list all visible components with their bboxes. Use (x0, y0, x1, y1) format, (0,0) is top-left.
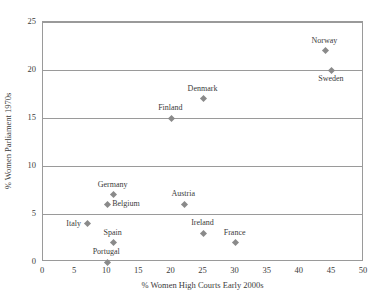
x-tick-45: 45 (327, 266, 336, 275)
y-tick-10: 10 (20, 161, 36, 170)
y-tick-5: 5 (20, 209, 36, 218)
data-point-germany[interactable] (110, 191, 117, 198)
point-label-france: France (224, 228, 246, 237)
gridline-y-15 (43, 118, 362, 119)
data-point-italy[interactable] (84, 220, 91, 227)
data-point-france[interactable] (232, 239, 239, 246)
x-tick-35: 35 (262, 266, 271, 275)
x-tick-15: 15 (134, 266, 143, 275)
point-label-ireland: Ireland (191, 218, 214, 227)
point-label-norway: Norway (312, 36, 338, 45)
y-tick-0: 0 (20, 257, 36, 266)
point-label-portugal: Portugal (93, 247, 120, 256)
gridline-y-5 (43, 214, 362, 215)
x-tick-40: 40 (295, 266, 304, 275)
y-axis-title: % Women Parliament 1970s (3, 93, 13, 190)
x-tick-20: 20 (166, 266, 175, 275)
x-tick-25: 25 (198, 266, 207, 275)
data-point-finland[interactable] (168, 114, 175, 121)
data-point-spain[interactable] (110, 239, 117, 246)
point-label-italy: Italy (66, 218, 81, 227)
x-tick-0: 0 (40, 266, 44, 275)
gridline-y-10 (43, 166, 362, 167)
scatter-chart-figure: 05101520253035404550 0510152025 Portugal… (0, 0, 392, 301)
data-point-belgium[interactable] (104, 201, 111, 208)
x-tick-30: 30 (230, 266, 239, 275)
point-label-spain: Spain (103, 228, 121, 237)
data-point-austria[interactable] (181, 201, 188, 208)
data-point-denmark[interactable] (200, 95, 207, 102)
point-label-austria: Austria (171, 189, 195, 198)
data-point-sweden[interactable] (328, 66, 335, 73)
y-tick-15: 15 (20, 113, 36, 122)
gridline-y-25 (43, 22, 362, 23)
point-label-germany: Germany (98, 180, 128, 189)
x-tick-10: 10 (102, 266, 111, 275)
x-tick-50: 50 (359, 266, 368, 275)
x-tick-5: 5 (72, 266, 76, 275)
point-label-belgium: Belgium (112, 199, 140, 208)
y-tick-20: 20 (20, 65, 36, 74)
data-point-ireland[interactable] (200, 230, 207, 237)
x-axis-title: % Women High Courts Early 2000s (42, 280, 363, 290)
point-label-denmark: Denmark (188, 84, 218, 93)
gridline-y-20 (43, 70, 362, 71)
data-point-norway[interactable] (322, 47, 329, 54)
point-label-sweden: Sweden (318, 74, 343, 83)
point-label-finland: Finland (158, 103, 182, 112)
y-tick-25: 25 (20, 17, 36, 26)
